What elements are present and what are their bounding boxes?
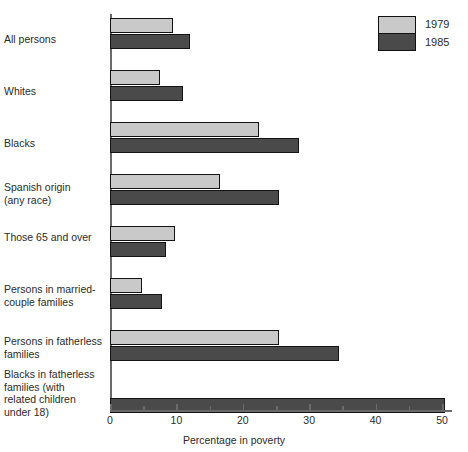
- bar-1979: [110, 122, 259, 137]
- bar-1979: [110, 330, 279, 345]
- category-label-line: Those 65 and over: [4, 231, 108, 244]
- bar-1985: [110, 34, 190, 49]
- category-label-line: Spanish origin: [4, 181, 108, 194]
- poverty-bar-chart: 1979 1985 All personsWhitesBlacksSpanish…: [0, 0, 468, 452]
- bar-1985: [110, 294, 162, 309]
- category-label: Spanish origin(any race): [4, 181, 108, 206]
- x-tick-major: [110, 404, 112, 410]
- category-axis-labels: All personsWhitesBlacksSpanish origin(an…: [4, 14, 108, 410]
- x-tick-minor: [276, 406, 278, 410]
- category-label: Blacks: [4, 137, 108, 150]
- x-axis: 01020304050: [110, 410, 452, 412]
- category-label-line: Persons in married-: [4, 283, 108, 296]
- category-label: All persons: [4, 33, 108, 46]
- bar-1985: [110, 190, 279, 205]
- bar-1979: [110, 174, 220, 189]
- category-label: Those 65 and over: [4, 231, 108, 244]
- category-label: Whites: [4, 85, 108, 98]
- x-tick-label: 50: [436, 414, 448, 426]
- category-label-line: Blacks: [4, 137, 108, 150]
- category-label-line: Blacks in fatherless: [4, 368, 108, 381]
- category-label-line: (any race): [4, 194, 108, 207]
- x-tick-minor: [409, 406, 411, 410]
- category-label-line: Persons in fatherless: [4, 335, 108, 348]
- x-axis-title: Percentage in poverty: [0, 434, 468, 446]
- x-tick-major: [243, 404, 245, 410]
- x-tick-minor: [143, 406, 145, 410]
- x-tick-label: 10: [171, 414, 183, 426]
- category-label-line: related children: [4, 393, 108, 406]
- bar-1979: [110, 18, 173, 33]
- x-tick-label: 0: [107, 414, 113, 426]
- x-axis-line: [110, 410, 452, 412]
- bar-1979: [110, 226, 175, 241]
- category-label-line: families (with: [4, 381, 108, 394]
- category-label-line: couple families: [4, 296, 108, 309]
- x-tick-minor: [342, 406, 344, 410]
- plot-area: [110, 14, 450, 410]
- bar-1979: [110, 70, 160, 85]
- x-tick-minor: [210, 406, 212, 410]
- x-tick-label: 20: [237, 414, 249, 426]
- category-label: Persons in fatherlessfamilies: [4, 335, 108, 360]
- x-tick-label: 30: [303, 414, 315, 426]
- category-label-line: Whites: [4, 85, 108, 98]
- x-tick-major: [309, 404, 311, 410]
- x-tick-major: [176, 404, 178, 410]
- bar-1985: [110, 346, 339, 361]
- x-tick-label: 40: [370, 414, 382, 426]
- x-tick-major: [376, 404, 378, 410]
- bar-1985: [110, 138, 299, 153]
- bars-layer: [110, 14, 450, 410]
- category-label-line: under 18): [4, 406, 108, 419]
- x-tick-major: [442, 404, 444, 410]
- category-label-line: families: [4, 348, 108, 361]
- bar-1979: [110, 278, 142, 293]
- bar-1985: [110, 86, 183, 101]
- category-label: Persons in married-couple families: [4, 283, 108, 308]
- category-label-line: All persons: [4, 33, 108, 46]
- bar-1985: [110, 242, 166, 257]
- category-label: Blacks in fatherlessfamilies (withrelate…: [4, 368, 108, 418]
